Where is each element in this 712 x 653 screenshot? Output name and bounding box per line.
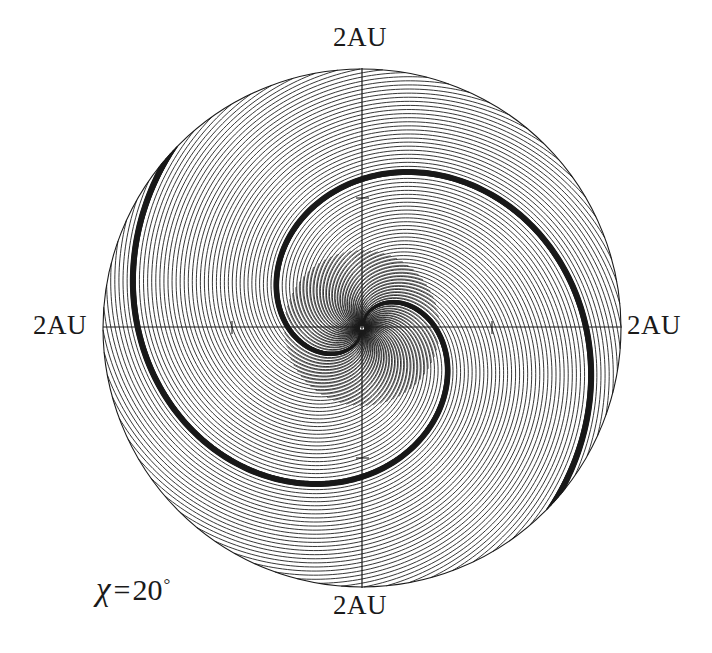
field-line <box>104 280 476 514</box>
field-line <box>180 73 407 439</box>
axis-label-left: 2AU <box>33 312 87 339</box>
field-line <box>134 152 447 483</box>
equals-sign: = <box>112 573 133 606</box>
field-line <box>252 146 618 373</box>
field-line-plot-svg <box>0 0 712 653</box>
axis-label-top: 2AU <box>333 24 387 51</box>
degree-symbol: ° <box>162 575 170 594</box>
axis-label-bottom: 2AU <box>333 592 387 619</box>
chi-value: 20 <box>132 573 162 606</box>
field-line <box>248 142 620 376</box>
axis-label-right: 2AU <box>627 312 681 339</box>
chi-symbol: χ <box>96 571 112 607</box>
parameter-annotation: χ=20° <box>96 573 170 606</box>
field-line <box>176 70 410 442</box>
field-line <box>107 283 473 510</box>
axes-group <box>103 68 622 588</box>
figure-container: 2AU 2AU 2AU 2AU χ=20° <box>0 0 712 653</box>
field-line <box>314 214 548 586</box>
field-line <box>277 173 590 504</box>
field-line <box>317 218 544 584</box>
